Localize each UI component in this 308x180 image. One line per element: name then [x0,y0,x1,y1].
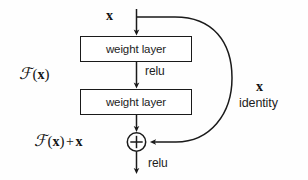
function-fx-label: ℱ(x) [19,66,50,82]
skip-identity-label: identity [239,97,278,110]
weight-layer-label-1: weight layer [106,43,166,55]
residual-block-diagram: weight layer weight layer x ℱ(x) ℱ(x)+x … [0,0,308,180]
skip-x-label: x [256,80,263,94]
fx-variable: x [38,67,45,82]
sum-identity-variable: x [75,134,82,149]
sum-plus-sign: + [65,134,76,149]
script-f-glyph-sum: ℱ [34,132,48,149]
sum-paren-close: ) [60,133,65,149]
output-sum-label: ℱ(x)+x [34,133,82,149]
fx-paren-close: ) [45,66,50,82]
sum-variable: x [53,134,60,149]
relu-label-bottom: relu [148,157,168,169]
weight-layer-box-1: weight layer [80,36,192,62]
input-x-label: x [106,9,113,23]
relu-label-middle: relu [145,65,165,77]
weight-layer-box-2: weight layer [80,89,192,115]
weight-layer-label-2: weight layer [106,96,166,108]
script-f-glyph: ℱ [19,65,33,82]
